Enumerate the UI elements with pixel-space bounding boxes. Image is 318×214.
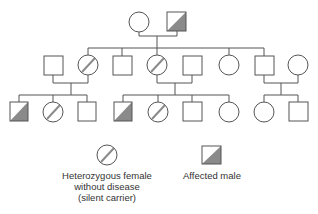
female-carrier-icon <box>147 55 167 75</box>
male-unaffected-icon <box>183 56 202 75</box>
male-unaffected-icon <box>78 102 96 121</box>
female-unaffected-icon <box>288 55 308 75</box>
legend-carrier-icon <box>97 145 117 165</box>
legend-carrier-line3: (silent carrier) <box>57 192 157 203</box>
legend-carrier-label: Heterozygous female without disease (sil… <box>57 170 157 203</box>
female-carrier-icon <box>43 102 63 122</box>
legend-affected-label: Affected male <box>172 170 252 181</box>
male-unaffected-icon <box>255 56 274 75</box>
female-carrier-icon <box>78 55 98 75</box>
male-unaffected-icon <box>113 56 132 75</box>
male-unaffected-icon <box>183 102 202 121</box>
male-unaffected-icon <box>44 56 63 75</box>
female-unaffected-icon <box>254 102 274 122</box>
female-unaffected-icon <box>129 12 149 32</box>
legend-carrier-line1: Heterozygous female <box>57 170 157 181</box>
male-unaffected-icon <box>289 102 308 121</box>
pedigree-chart <box>0 0 318 214</box>
male-affected-icon <box>10 102 28 121</box>
legend-carrier-line2: without disease <box>57 181 157 192</box>
female-unaffected-icon <box>219 55 239 75</box>
male-affected-icon <box>114 102 132 121</box>
female-carrier-icon <box>148 102 168 122</box>
legend-affected-icon <box>202 146 221 164</box>
legend-affected-text: Affected male <box>172 170 252 181</box>
pedigree-diagram: Heterozygous female without disease (sil… <box>0 0 318 214</box>
female-unaffected-icon <box>219 102 239 122</box>
male-affected-icon <box>167 12 186 31</box>
